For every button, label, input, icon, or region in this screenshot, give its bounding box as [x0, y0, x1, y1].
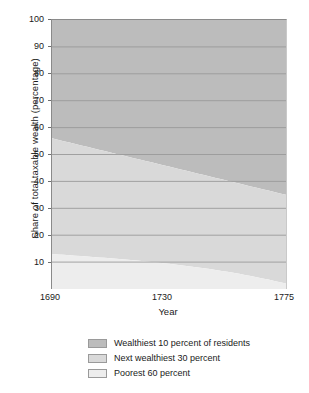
- legend-swatch-poorest-60: [88, 369, 107, 378]
- legend-label-next-30: Next wealthiest 30 percent: [114, 353, 220, 363]
- chart-figure: Share of total taxable wealth (percentag…: [0, 0, 309, 393]
- x-axis-title: Year: [51, 306, 285, 317]
- legend-label-wealthiest-10: Wealthiest 10 percent of residents: [114, 338, 250, 348]
- legend-swatch-wealthiest-10: [88, 339, 107, 348]
- y-tick-label-60: 60: [0, 123, 44, 132]
- x-tick-label-1690: 1690: [40, 293, 60, 302]
- x-tick-label-1730: 1730: [152, 293, 172, 302]
- y-tick-label-20: 20: [0, 231, 44, 240]
- legend-item-poorest-60: Poorest 60 percent: [88, 366, 303, 380]
- y-tick-label-100: 100: [0, 15, 44, 24]
- y-tick-label-90: 90: [0, 42, 44, 51]
- plot-area: [51, 19, 287, 289]
- chart-legend: Wealthiest 10 percent of residents Next …: [88, 336, 303, 381]
- legend-label-poorest-60: Poorest 60 percent: [114, 368, 190, 378]
- y-axis-ticks: 100 90 80 70 60 50 40 30 20 10: [0, 0, 49, 393]
- legend-swatch-next-30: [88, 354, 107, 363]
- y-tick-label-80: 80: [0, 69, 44, 78]
- y-tick-label-40: 40: [0, 177, 44, 186]
- y-tick-label-50: 50: [0, 150, 44, 159]
- legend-item-wealthiest-10: Wealthiest 10 percent of residents: [88, 336, 303, 350]
- y-tick-label-10: 10: [0, 258, 44, 267]
- stacked-area-svg: [52, 20, 286, 289]
- y-tick-label-70: 70: [0, 96, 44, 105]
- legend-item-next-30: Next wealthiest 30 percent: [88, 351, 303, 365]
- x-tick-label-1775: 1775: [274, 293, 294, 302]
- y-tick-label-30: 30: [0, 204, 44, 213]
